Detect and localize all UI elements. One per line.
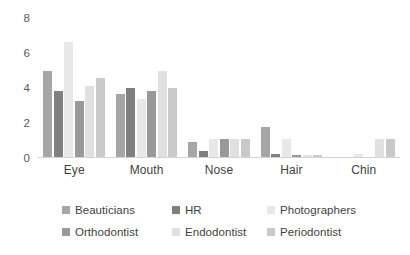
legend-swatch-icon <box>172 206 180 214</box>
legend-item-periodontist[interactable]: Periodontist <box>267 226 362 238</box>
legend-item-photographers[interactable]: Photographers <box>267 204 362 216</box>
y-tick-0: 0 <box>0 152 30 164</box>
bar-eye-periodontist[interactable] <box>96 78 105 159</box>
legend-label: Endodontist <box>185 226 246 238</box>
bar-mouth-periodontist[interactable] <box>168 88 177 158</box>
y-tick-8: 8 <box>0 12 30 24</box>
bar-mouth-endodontist[interactable] <box>158 71 167 159</box>
bar-eye-orthodontist[interactable] <box>75 101 84 158</box>
legend-label: Orthodontist <box>75 226 138 238</box>
bar-mouth-hr[interactable] <box>126 88 135 158</box>
bar-nose-beauticians[interactable] <box>188 142 197 158</box>
y-tick-6: 6 <box>0 47 30 59</box>
legend-label: Photographers <box>280 204 356 216</box>
bar-mouth-beauticians[interactable] <box>116 94 125 158</box>
legend-swatch-icon <box>267 228 275 236</box>
chart-legend: BeauticiansHRPhotographersOrthodontistEn… <box>62 199 362 243</box>
y-axis: 8 6 4 2 0 <box>0 18 30 158</box>
x-label-mouth: Mouth <box>110 163 182 177</box>
bar-group-hair <box>255 18 327 158</box>
legend-swatch-icon <box>267 206 275 214</box>
bar-eye-hr[interactable] <box>54 91 63 158</box>
bar-eye-photographers[interactable] <box>64 42 73 158</box>
bar-hair-photographers[interactable] <box>282 139 291 158</box>
bar-nose-periodontist[interactable] <box>241 139 250 158</box>
bar-chin-periodontist[interactable] <box>386 139 395 158</box>
bar-mouth-orthodontist[interactable] <box>147 91 156 158</box>
legend-item-endodontist[interactable]: Endodontist <box>172 226 267 238</box>
bar-nose-photographers[interactable] <box>209 139 218 158</box>
legend-swatch-icon <box>62 206 70 214</box>
bar-eye-beauticians[interactable] <box>43 71 52 158</box>
legend-label: HR <box>185 204 202 216</box>
legend-swatch-icon <box>172 228 180 236</box>
x-label-chin: Chin <box>328 163 400 177</box>
bar-group-eye <box>38 18 110 158</box>
legend-item-hr[interactable]: HR <box>172 204 267 216</box>
x-axis-line <box>38 157 400 158</box>
x-label-hair: Hair <box>255 163 327 177</box>
x-axis-labels: EyeMouthNoseHairChin <box>38 163 400 177</box>
bar-group-chin <box>328 18 400 158</box>
y-tick-4: 4 <box>0 82 30 94</box>
bar-eye-endodontist[interactable] <box>85 86 94 158</box>
bar-group-mouth <box>110 18 182 158</box>
bar-groups <box>38 18 400 158</box>
bar-nose-endodontist[interactable] <box>230 139 239 158</box>
legend-label: Periodontist <box>280 226 341 238</box>
legend-item-orthodontist[interactable]: Orthodontist <box>62 226 172 238</box>
legend-label: Beauticians <box>75 204 135 216</box>
bar-chart: 8 6 4 2 0 EyeMouthNoseHairChin Beauticia… <box>0 0 410 255</box>
bar-nose-orthodontist[interactable] <box>220 139 229 158</box>
x-label-eye: Eye <box>38 163 110 177</box>
bar-chin-endodontist[interactable] <box>375 139 384 158</box>
y-tick-2: 2 <box>0 117 30 129</box>
bar-mouth-photographers[interactable] <box>137 99 146 158</box>
bar-group-nose <box>183 18 255 158</box>
bar-hair-beauticians[interactable] <box>261 127 270 159</box>
x-label-nose: Nose <box>183 163 255 177</box>
plot-area <box>38 18 400 158</box>
legend-swatch-icon <box>62 228 70 236</box>
legend-item-beauticians[interactable]: Beauticians <box>62 204 172 216</box>
